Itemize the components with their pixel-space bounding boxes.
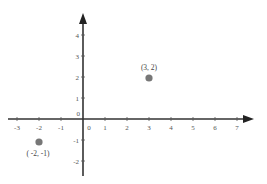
y-tick-labels: 4 3 2 1 0 -1 -2 — [73, 32, 80, 166]
x-axis-arrow-icon — [243, 115, 254, 123]
x-tick-labels: -3 -2 -1 0 1 2 3 4 5 6 7 — [14, 124, 239, 132]
svg-text:3: 3 — [76, 53, 80, 61]
svg-text:1: 1 — [103, 124, 107, 132]
svg-text:-3: -3 — [14, 124, 20, 132]
svg-text:2: 2 — [76, 74, 80, 82]
svg-text:6: 6 — [213, 124, 217, 132]
svg-text:-2: -2 — [73, 158, 79, 166]
data-point-neg2-neg1[interactable] — [35, 138, 42, 145]
point-label-neg2-neg1: ( -2, -1) — [26, 149, 50, 158]
svg-text:2: 2 — [125, 124, 129, 132]
svg-text:4: 4 — [169, 124, 173, 132]
svg-text:4: 4 — [76, 32, 80, 40]
svg-text:0: 0 — [77, 110, 81, 118]
svg-text:-1: -1 — [58, 124, 64, 132]
svg-text:-2: -2 — [36, 124, 42, 132]
svg-text:1: 1 — [76, 95, 80, 103]
point-label-3-2: (3, 2) — [141, 63, 158, 72]
svg-text:3: 3 — [147, 124, 151, 132]
coordinate-plane: -3 -2 -1 0 1 2 3 4 5 6 7 4 3 2 1 0 -1 -2… — [0, 0, 267, 184]
svg-text:0: 0 — [87, 124, 91, 132]
data-point-3-2[interactable] — [145, 74, 152, 81]
svg-text:-1: -1 — [73, 137, 79, 145]
svg-text:7: 7 — [235, 124, 239, 132]
y-axis-arrow-icon — [79, 13, 87, 24]
svg-text:5: 5 — [191, 124, 195, 132]
